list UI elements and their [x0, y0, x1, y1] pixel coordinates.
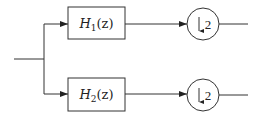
downsample-factor-2: 2	[205, 88, 212, 103]
branch-1: H1(z) 2	[44, 7, 248, 40]
branch-2: H2(z) 2	[44, 78, 248, 111]
filter-bank-diagram: H1(z) 2 H2(z) 2	[0, 0, 263, 120]
filter-label-2: H2(z)	[78, 87, 113, 104]
downsampler-circle-2	[187, 79, 219, 111]
diagram-svg: H1(z) 2 H2(z) 2	[0, 0, 263, 120]
downsampler-circle-1	[187, 8, 219, 40]
filter-label-1: H1(z)	[78, 16, 113, 33]
downsample-factor-1: 2	[205, 17, 212, 32]
